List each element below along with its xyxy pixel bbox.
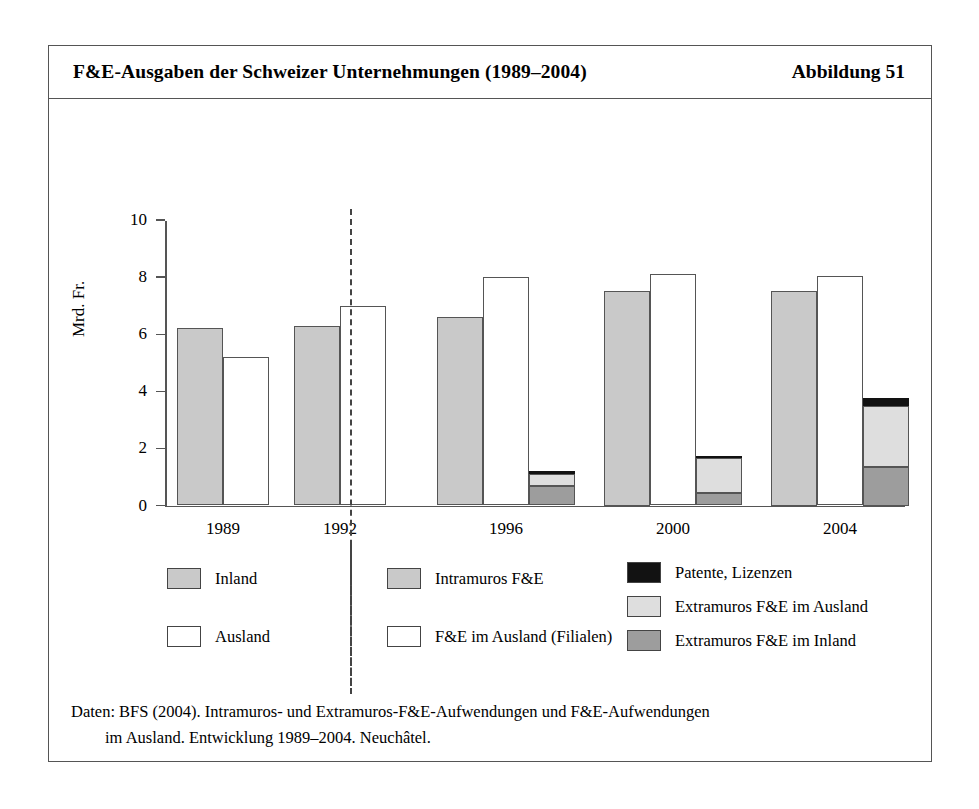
legend-item: Extramuros F&E im Inland <box>627 630 856 651</box>
legend-swatch-icon <box>167 626 201 647</box>
figure-caption: Daten: BFS (2004). Intramuros- und Extra… <box>71 699 901 750</box>
legend-item: Inland <box>167 568 257 589</box>
bar <box>817 276 863 506</box>
x-tick-label-1989: 1989 <box>177 520 269 537</box>
legend-item: Ausland <box>167 626 270 647</box>
y-tick-label: 10 <box>113 211 147 228</box>
stacked-bar <box>863 398 909 505</box>
y-tick-label: 6 <box>113 325 147 342</box>
bar <box>771 291 817 505</box>
x-axis-line <box>165 506 905 508</box>
legend-label: Intramuros F&E <box>435 569 544 589</box>
x-tick-label-1992: 1992 <box>294 520 386 537</box>
bar-segment <box>863 398 909 405</box>
figure-page: F&E-Ausgaben der Schweizer Unternehmunge… <box>0 0 979 809</box>
caption-line-1: Daten: BFS (2004). Intramuros- und Extra… <box>71 702 710 721</box>
bar <box>294 326 340 506</box>
legend-item: Intramuros F&E <box>387 568 544 589</box>
legend-label: F&E im Ausland (Filialen) <box>435 627 612 647</box>
bar <box>650 274 696 505</box>
figure-title: F&E-Ausgaben der Schweizer Unternehmunge… <box>73 61 587 83</box>
bar-segment <box>696 458 742 492</box>
y-tick-mark <box>156 448 165 449</box>
legend-item: F&E im Ausland (Filialen) <box>387 626 612 647</box>
bar <box>483 277 529 505</box>
y-tick-label: 0 <box>113 497 147 514</box>
bar <box>177 328 223 505</box>
bar-segment <box>529 474 575 485</box>
y-tick-mark <box>156 219 165 220</box>
stacked-bar <box>696 456 742 506</box>
legend-swatch-icon <box>627 562 661 583</box>
legend-label: Ausland <box>215 627 270 647</box>
y-tick-mark <box>156 334 165 335</box>
y-tick-label: 2 <box>113 439 147 456</box>
x-tick-label-2004: 2004 <box>771 520 909 537</box>
bar-segment <box>529 471 575 474</box>
y-tick-label: 8 <box>113 268 147 285</box>
bar <box>604 291 650 505</box>
bar-segment <box>696 456 742 459</box>
stacked-bar <box>529 471 575 505</box>
y-tick-mark <box>156 505 165 506</box>
legend-label: Extramuros F&E im Ausland <box>675 597 868 617</box>
y-tick-label: 4 <box>113 382 147 399</box>
caption-line-2: im Ausland. Entwicklung 1989–2004. Neuch… <box>71 725 901 751</box>
figure-title-bar: F&E-Ausgaben der Schweizer Unternehmunge… <box>49 46 931 99</box>
bar <box>437 317 483 505</box>
legend-label: Patente, Lizenzen <box>675 563 792 583</box>
legend-separator-dashed-line <box>350 544 352 694</box>
x-tick-label-2000: 2000 <box>604 520 742 537</box>
legend-swatch-icon <box>167 568 201 589</box>
y-tick-mark <box>156 276 165 277</box>
legend-item: Patente, Lizenzen <box>627 562 792 583</box>
legend-swatch-icon <box>627 630 661 651</box>
bar-segment <box>863 467 909 506</box>
legend-label: Inland <box>215 569 257 589</box>
x-tick-label-1996: 1996 <box>437 520 575 537</box>
bar <box>340 306 386 506</box>
bar <box>223 357 269 505</box>
bar-segment <box>696 493 742 506</box>
legend-swatch-icon <box>387 626 421 647</box>
figure-number: Abbildung 51 <box>792 61 905 83</box>
y-axis-label: Mrd. Fr. <box>69 281 89 337</box>
legend-swatch-icon <box>627 596 661 617</box>
plot-area: Mrd. Fr. 0246810 19891992199620002004 In… <box>49 99 931 763</box>
y-axis-line <box>165 221 167 507</box>
bar-segment <box>863 406 909 467</box>
legend-swatch-icon <box>387 568 421 589</box>
legend-label: Extramuros F&E im Inland <box>675 631 856 651</box>
chart-legend: InlandAusland Intramuros F&EF&E im Ausla… <box>49 544 931 659</box>
legend-item: Extramuros F&E im Ausland <box>627 596 868 617</box>
figure-frame: F&E-Ausgaben der Schweizer Unternehmunge… <box>48 45 932 762</box>
bar-segment <box>529 486 575 506</box>
y-tick-mark <box>156 391 165 392</box>
